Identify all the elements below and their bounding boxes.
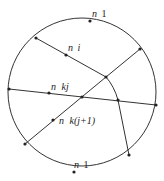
node-left-boundary xyxy=(7,87,10,90)
node-nkj1 xyxy=(51,118,54,121)
boundary-circle xyxy=(8,18,156,166)
node-upper-right-boundary xyxy=(138,47,141,50)
node-lower-right-boundary xyxy=(127,153,130,156)
label-top-n1: n 1 xyxy=(92,8,107,19)
node-lower-left-boundary xyxy=(23,142,26,145)
label-nkj: n kj xyxy=(51,81,69,92)
node-right-junction xyxy=(116,98,119,101)
circle-partition-diagram: n 1 n i n kj n k(j+1) n 1 xyxy=(0,0,164,181)
edge-lower-right xyxy=(118,100,129,155)
edge-junction-curve xyxy=(106,77,118,100)
label-nkj1: n k(j+1) xyxy=(59,115,96,127)
node-right-boundary xyxy=(154,103,157,106)
diagram-canvas: n 1 n i n kj n k(j+1) n 1 xyxy=(0,0,164,181)
label-ni: n i xyxy=(68,42,81,53)
node-upper-junction xyxy=(104,75,107,78)
node-upper-left-boundary xyxy=(34,36,37,39)
node-center-junction xyxy=(80,95,83,98)
node-ni xyxy=(64,53,67,56)
label-bottom-n1: n 1 xyxy=(74,159,89,170)
node-top-n1 xyxy=(88,19,91,22)
node-bottom-n1 xyxy=(72,170,75,173)
edge-upper-right xyxy=(106,49,140,77)
nodes xyxy=(7,19,157,173)
